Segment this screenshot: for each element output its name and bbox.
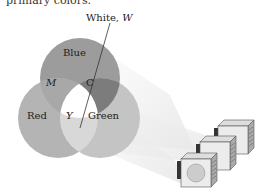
projector-3 [177, 153, 217, 187]
additive-color-diagram: White, W Blue M C Red Y Green [0, 0, 259, 195]
cyan-label: C [86, 77, 94, 88]
magenta-label: M [45, 77, 57, 88]
green-label: Green [88, 110, 120, 121]
white-label: White, W [86, 12, 133, 23]
red-label: Red [27, 110, 47, 121]
blue-label: Blue [63, 47, 86, 58]
